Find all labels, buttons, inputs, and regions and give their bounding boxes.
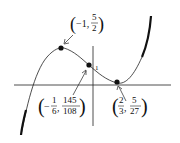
curve-end-right xyxy=(142,16,151,57)
svg-text:): ) xyxy=(141,95,148,118)
x-sign: − xyxy=(44,101,50,112)
label-local-maximum: ( −1, 5 2 ) xyxy=(70,12,104,35)
svg-text:): ) xyxy=(98,14,104,35)
svg-text:,: , xyxy=(124,102,127,113)
inflection-point xyxy=(86,62,91,67)
x-numerator: 2 xyxy=(119,95,124,105)
x-value: −1, xyxy=(76,18,89,29)
y-denominator: 2 xyxy=(92,23,97,33)
arrow-local-maximum xyxy=(65,35,73,43)
y-denominator: 27 xyxy=(130,106,140,116)
label-inflection: ( − 1 6 , 145 108 ) xyxy=(38,95,86,118)
curve-end-left xyxy=(21,110,26,135)
y-numerator: 5 xyxy=(92,12,97,22)
local-minimum-point xyxy=(114,79,119,84)
cubic-graph: 1 ( −1, 5 2 ) ( − 1 6 , 145 108 ) ( xyxy=(0,0,180,143)
y-numerator: 145 xyxy=(63,95,77,105)
svg-text:,: , xyxy=(57,102,60,113)
y-denominator: 108 xyxy=(63,106,77,116)
svg-text:): ) xyxy=(79,95,86,118)
local-maximum-point xyxy=(58,45,63,50)
x-numerator: 1 xyxy=(52,95,57,105)
y-numerator: 5 xyxy=(132,95,137,105)
label-local-minimum: ( 2 3 , 5 27 ) xyxy=(112,95,148,118)
svg-text:(: ( xyxy=(112,95,119,118)
arrow-inflection xyxy=(73,71,86,95)
cubic-curve xyxy=(21,48,142,135)
